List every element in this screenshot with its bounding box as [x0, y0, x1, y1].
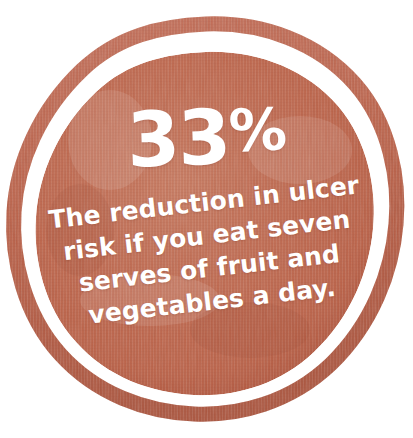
stat-badge: 33% The reduction in ulcer risk if you e…: [0, 0, 413, 438]
badge-artwork: [0, 0, 413, 438]
